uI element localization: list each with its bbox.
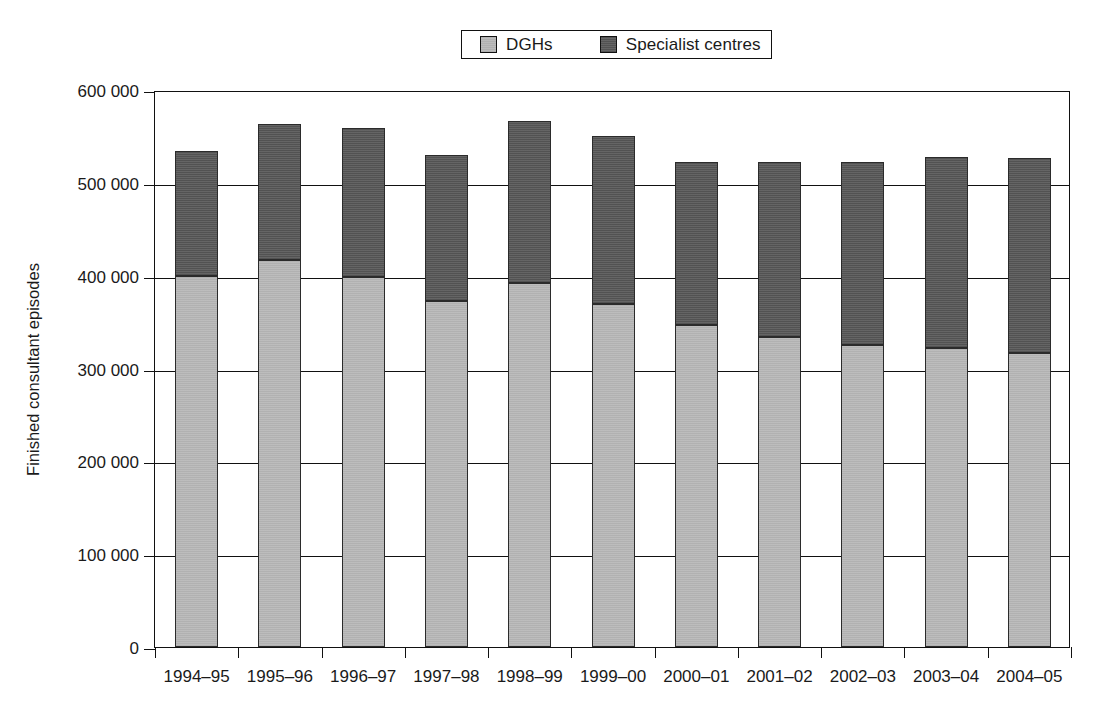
- bar-segment-specialist-centres: [342, 128, 385, 277]
- plot-area: 0100 000200 000300 000400 000500 000600 …: [154, 91, 1070, 648]
- bar-segment-specialist-centres: [425, 155, 468, 301]
- x-axis-tick-label: 2004–05: [996, 667, 1062, 687]
- legend-item-specialist-centres: Specialist centres: [600, 36, 761, 53]
- x-axis-tick-label: 1997–98: [413, 667, 479, 687]
- bar-segment-dghs: [425, 301, 468, 647]
- legend-swatch-specialist-centres: [600, 36, 617, 53]
- y-axis-tick: [144, 463, 155, 464]
- y-axis-tick-label: 500 000: [78, 175, 139, 195]
- bar-stack: [258, 124, 301, 647]
- bar-stack: [1008, 158, 1051, 647]
- bar-stack: [342, 128, 385, 647]
- x-axis-tick: [655, 647, 656, 658]
- bar-stack: [508, 121, 551, 647]
- bar-segment-specialist-centres: [258, 124, 301, 260]
- x-axis-tick: [1071, 647, 1072, 658]
- bar-segment-dghs: [258, 260, 301, 647]
- y-axis-tick: [144, 92, 155, 93]
- x-axis-tick: [904, 647, 905, 658]
- x-axis-tick: [155, 647, 156, 658]
- x-axis-tick-label: 1999–00: [580, 667, 646, 687]
- legend-swatch-dghs: [480, 36, 497, 53]
- legend-label-specialist-centres: Specialist centres: [626, 36, 761, 53]
- x-axis-tick: [322, 647, 323, 658]
- y-axis-tick: [144, 185, 155, 186]
- bar-segment-specialist-centres: [841, 162, 884, 345]
- bar-stack: [675, 162, 718, 647]
- x-axis-tick-label: 1994–95: [164, 667, 230, 687]
- bar-segment-specialist-centres: [1008, 158, 1051, 353]
- bar-segment-specialist-centres: [592, 136, 635, 304]
- x-axis-tick: [488, 647, 489, 658]
- bar-segment-specialist-centres: [508, 121, 551, 283]
- bar-segment-dghs: [758, 337, 801, 647]
- x-axis-tick-label: 2000–01: [663, 667, 729, 687]
- bar-segment-specialist-centres: [758, 162, 801, 337]
- legend-label-dghs: DGHs: [506, 36, 553, 53]
- y-axis-tick-label: 200 000: [78, 453, 139, 473]
- chart-legend: DGHs Specialist centres: [461, 30, 772, 59]
- bar-segment-dghs: [508, 283, 551, 647]
- bar-stack: [841, 162, 884, 647]
- bar-segment-dghs: [1008, 353, 1051, 647]
- y-axis-tick-label: 400 000: [78, 268, 139, 288]
- x-axis-tick-label: 2001–02: [746, 667, 812, 687]
- legend-item-dghs: DGHs: [480, 36, 553, 53]
- x-axis-tick-label: 1995–96: [247, 667, 313, 687]
- x-axis-tick: [988, 647, 989, 658]
- bar-segment-dghs: [841, 345, 884, 647]
- bar-stack: [425, 155, 468, 647]
- bar-segment-specialist-centres: [675, 162, 718, 324]
- x-axis-tick-label: 2003–04: [913, 667, 979, 687]
- bar-segment-specialist-centres: [175, 151, 218, 275]
- x-axis-tick: [738, 647, 739, 658]
- bar-stack: [592, 136, 635, 647]
- x-axis-tick: [238, 647, 239, 658]
- bar-segment-dghs: [175, 276, 218, 647]
- x-axis-tick-label: 1996–97: [330, 667, 396, 687]
- y-axis-tick-label: 600 000: [78, 82, 139, 102]
- bar-segment-dghs: [675, 325, 718, 647]
- x-axis-tick-label: 1998–99: [497, 667, 563, 687]
- bar-segment-dghs: [592, 304, 635, 647]
- y-axis-tick: [144, 371, 155, 372]
- bar-segment-specialist-centres: [925, 157, 968, 348]
- bar-stack: [925, 157, 968, 647]
- bar-segment-dghs: [925, 348, 968, 647]
- y-axis-tick-label: 100 000: [78, 546, 139, 566]
- y-axis-tick-label: 300 000: [78, 361, 139, 381]
- chart-figure: DGHs Specialist centres Finished consult…: [0, 0, 1109, 719]
- bar-stack: [758, 162, 801, 647]
- y-axis-title: Finished consultant episodes: [22, 91, 44, 648]
- x-axis-tick-label: 2002–03: [830, 667, 896, 687]
- x-axis-tick: [571, 647, 572, 658]
- x-axis-tick: [821, 647, 822, 658]
- x-axis-tick: [405, 647, 406, 658]
- y-axis-tick: [144, 556, 155, 557]
- bar-stack: [175, 151, 218, 647]
- y-axis-tick: [144, 649, 155, 650]
- y-axis-tick-label: 0: [130, 639, 139, 659]
- y-axis-tick: [144, 278, 155, 279]
- bar-segment-dghs: [342, 277, 385, 647]
